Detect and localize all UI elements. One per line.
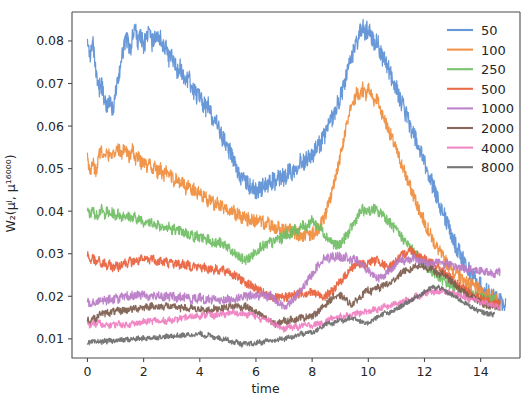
legend-label-8000: 8000 xyxy=(481,160,514,175)
legend-label-100: 100 xyxy=(481,43,506,58)
legend-entry-100: 100 xyxy=(447,43,506,58)
y-tick-label: 0.08 xyxy=(36,33,64,48)
y-axis-label: W₂(μʲ, μ¹⁶⁰⁰⁰) xyxy=(3,104,18,284)
y-tick-label: 0.02 xyxy=(36,289,64,304)
series-group xyxy=(87,19,505,347)
series-line-250 xyxy=(87,204,494,305)
axes-frame xyxy=(72,12,520,358)
legend-label-4000: 4000 xyxy=(481,141,514,156)
y-tick-label: 0.03 xyxy=(36,246,64,261)
x-tick-label: 4 xyxy=(196,364,204,379)
y-tick-label: 0.04 xyxy=(36,204,64,219)
x-tick-label: 14 xyxy=(473,364,489,379)
legend-label-2000: 2000 xyxy=(481,121,514,136)
x-axis-label: time xyxy=(0,381,531,396)
x-tick-label: 0 xyxy=(83,364,91,379)
legend-entry-4000: 4000 xyxy=(447,141,514,156)
y-tick-label: 0.01 xyxy=(36,331,64,346)
legend-label-250: 250 xyxy=(481,62,506,77)
legend-entry-500: 500 xyxy=(447,82,506,97)
legend-entry-8000: 8000 xyxy=(447,160,514,175)
legend-label-1000: 1000 xyxy=(481,101,514,116)
x-tick-label: 12 xyxy=(417,364,433,379)
y-tick-label: 0.06 xyxy=(36,119,64,134)
legend-entry-1000: 1000 xyxy=(447,101,514,116)
x-tick-label: 2 xyxy=(140,364,148,379)
legend-entry-50: 50 xyxy=(447,23,498,38)
x-tick-label: 10 xyxy=(360,364,376,379)
legend-label-50: 50 xyxy=(481,23,498,38)
y-tick-label: 0.05 xyxy=(36,161,64,176)
x-tick-label: 8 xyxy=(308,364,316,379)
x-tick-label: 6 xyxy=(252,364,260,379)
chart-canvas: 024681012140.010.020.030.040.050.060.070… xyxy=(0,0,531,404)
figure: 024681012140.010.020.030.040.050.060.070… xyxy=(0,0,531,404)
legend-label-500: 500 xyxy=(481,82,506,97)
y-tick-label: 0.07 xyxy=(36,76,64,91)
legend-entry-2000: 2000 xyxy=(447,121,514,136)
legend-entry-250: 250 xyxy=(447,62,506,77)
